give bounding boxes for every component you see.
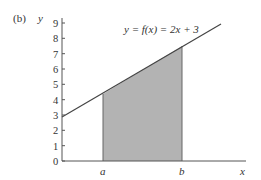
y-axis-label: y (37, 12, 43, 24)
y-tick-1: 1 (53, 141, 58, 152)
y-tick-7: 7 (53, 49, 58, 60)
function-label: y = f(x) = 2x + 3 (123, 23, 199, 36)
interval-end-b: b (179, 165, 185, 177)
interval-start-a: a (100, 165, 106, 177)
panel-label: (b) (13, 12, 26, 25)
x-axis-label: x (239, 165, 245, 177)
y-tick-0: 0 (53, 156, 58, 167)
y-tick-3: 3 (53, 110, 58, 121)
y-tick-labels: 0 1 2 3 4 5 6 7 8 9 (53, 18, 59, 167)
area-under-line-diagram: 0 1 2 3 4 5 6 7 8 9 (b) y x y = f(x) = 2… (0, 0, 261, 180)
y-tick-2: 2 (53, 125, 58, 136)
y-tick-5: 5 (53, 79, 58, 90)
y-tick-8: 8 (53, 33, 58, 44)
y-tick-4: 4 (53, 95, 59, 106)
y-tick-9: 9 (53, 18, 58, 29)
y-tick-6: 6 (53, 64, 58, 75)
shaded-area-region (103, 46, 182, 161)
